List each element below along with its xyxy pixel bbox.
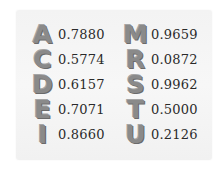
letter-icon: E (30, 99, 53, 121)
table-row: S0.9962 (124, 72, 198, 97)
table-row: M0.9659 (124, 22, 198, 47)
value-text: 0.0872 (151, 52, 198, 67)
value-text: 0.7880 (58, 27, 105, 42)
value-text: 0.6157 (58, 77, 105, 92)
letter-icon: R (123, 49, 146, 71)
value-text: 0.5774 (58, 52, 105, 67)
value-text: 0.8660 (58, 127, 105, 142)
letter-icon: D (30, 74, 53, 96)
table-row: C0.5774 (31, 47, 105, 72)
letter-icon: S (123, 74, 146, 96)
letter-icon: C (30, 49, 53, 71)
value-text: 0.9962 (151, 77, 198, 92)
value-text: 0.9659 (151, 27, 198, 42)
letter-icon: M (123, 24, 146, 46)
letter-icon: T (123, 99, 146, 121)
table-row: T0.5000 (124, 97, 198, 122)
letter-icon: A (30, 24, 53, 46)
letter-icon: I (30, 124, 53, 146)
table-row: I0.8660 (31, 122, 105, 147)
table-row: A0.7880 (31, 22, 105, 47)
table-row: D0.6157 (31, 72, 105, 97)
table-row: U0.2126 (124, 122, 198, 147)
table-row: E0.7071 (31, 97, 105, 122)
table-row: R0.0872 (124, 47, 198, 72)
letter-icon: U (123, 124, 146, 146)
value-text: 0.7071 (58, 102, 105, 117)
value-text: 0.5000 (151, 102, 198, 117)
value-text: 0.2126 (151, 127, 198, 142)
right-column: M0.9659 R0.0872 S0.9962 T0.5000 U0.2126 (124, 22, 198, 147)
left-column: A0.7880 C0.5774 D0.6157 E0.7071 I0.8660 (31, 22, 105, 147)
